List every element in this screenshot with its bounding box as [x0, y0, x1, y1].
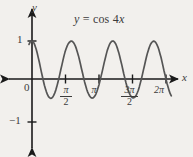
fraction-numerator: 3π [121, 85, 138, 95]
title-variable: x [119, 12, 125, 26]
fraction-numerator: π [60, 85, 72, 95]
title-rhs: = cos 4 [80, 12, 119, 26]
y-tick-label-1: 1 [17, 34, 23, 45]
x-tick-label-pi-over-2: π 2 [60, 85, 72, 107]
x-axis-label: x [182, 72, 187, 83]
graph-figure: y = cos 4x y x 1 −1 0 π 2 π 3π 2 2π [0, 0, 193, 157]
origin-label: 0 [24, 82, 30, 93]
equation-title: y = cos 4x [74, 13, 124, 25]
x-tick-label-pi: π [89, 85, 99, 95]
y-axis-label: y [32, 2, 37, 13]
fraction-denominator: 2 [121, 97, 138, 107]
x-tick-label-3pi-over-2: 3π 2 [121, 85, 138, 107]
fraction-denominator: 2 [60, 97, 72, 107]
x-tick-label-2pi: 2π [150, 85, 168, 95]
y-tick-label-neg1: −1 [9, 115, 21, 126]
